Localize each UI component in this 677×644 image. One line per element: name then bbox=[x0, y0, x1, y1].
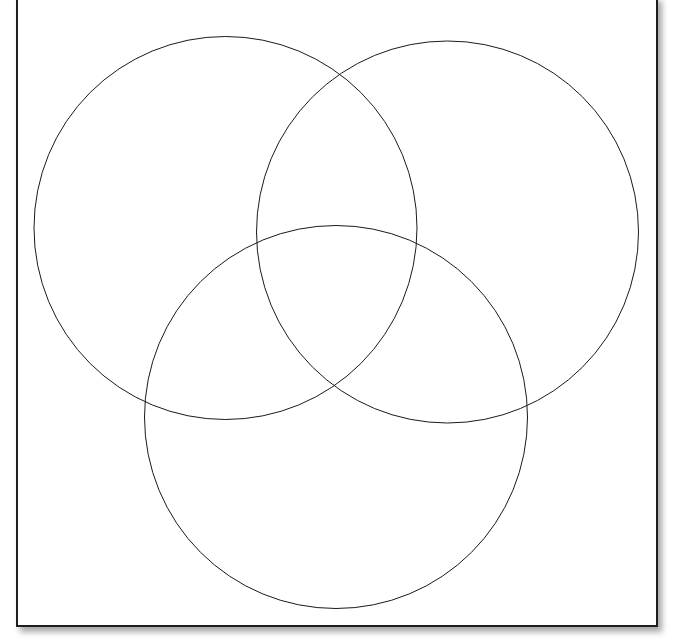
venn-diagram-stage bbox=[0, 0, 677, 644]
venn-circle-right bbox=[257, 41, 639, 423]
venn-circle-bottom bbox=[145, 226, 528, 609]
venn-diagram bbox=[0, 0, 677, 644]
venn-circle-left bbox=[34, 37, 417, 420]
